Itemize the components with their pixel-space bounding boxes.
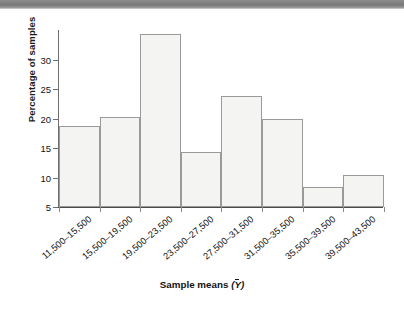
y-tick-label-10: 10	[40, 172, 51, 183]
y-tick-mark-25	[53, 89, 58, 90]
x-tick-mark-4	[221, 207, 222, 212]
y-axis-title: Percentage of samples	[26, 0, 37, 150]
y-tick-label-15: 15	[40, 143, 51, 154]
page-scan-band	[0, 0, 404, 9]
y-tick-mark-5	[53, 207, 58, 208]
y-tick-mark-20	[53, 119, 58, 120]
x-tick-mark-0	[59, 207, 60, 212]
bar-1	[100, 117, 141, 207]
histogram-figure: Percentage of samples 5 10 15 20 25 30	[0, 9, 404, 313]
bar-2	[140, 34, 181, 208]
x-tick-mark-2	[140, 207, 141, 212]
y-tick-label-30: 30	[40, 54, 51, 65]
x-tick-mark-6	[303, 207, 304, 212]
y-tick-mark-30	[53, 60, 58, 61]
bar-6	[303, 187, 344, 207]
y-tick-label-25: 25	[40, 84, 51, 95]
x-axis-title-text: Sample means	[160, 279, 229, 290]
y-tick-label-20: 20	[40, 113, 51, 124]
bar-3	[181, 152, 222, 208]
y-tick-mark-10	[53, 178, 58, 179]
x-tick-mark-8	[384, 207, 385, 212]
x-axis-title-symbol: (Y)	[228, 279, 244, 290]
x-tick-mark-1	[100, 207, 101, 212]
x-tick-mark-7	[343, 207, 344, 212]
y-tick-mark-15	[53, 148, 58, 149]
y-tick-label-5: 5	[46, 202, 51, 213]
plot-area: 5 10 15 20 25 30	[58, 30, 383, 207]
bar-0	[59, 126, 100, 207]
x-axis-title: Sample means (Y)	[0, 279, 404, 290]
x-tick-mark-5	[262, 207, 263, 212]
bar-4	[221, 96, 262, 208]
bar-5	[262, 119, 303, 208]
bar-7	[343, 175, 384, 207]
x-tick-mark-3	[181, 207, 182, 212]
